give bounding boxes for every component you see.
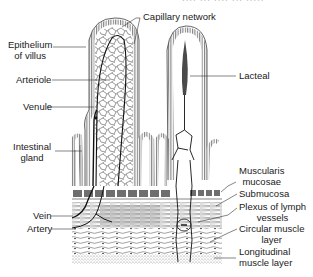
label-submucosa: Submucosa <box>239 189 289 200</box>
label-muscularis-mucosae: Muscularis mucosae <box>239 166 284 187</box>
label-capillary-network: Capillary network <box>143 12 216 23</box>
label-intestinal-gland: Intestinal gland <box>13 142 51 163</box>
label-venule: Venule <box>23 102 52 113</box>
label-plexus-of-lymph-vessels: Plexus of lymph vessels <box>239 202 306 223</box>
label-arteriole: Arteriole <box>16 75 51 86</box>
label-lacteal: Lacteal <box>239 71 270 82</box>
villus-diagram: ···· ··· ···· ··· ····· <box>0 0 313 277</box>
label-artery: Artery <box>27 224 52 235</box>
label-circular-muscle-layer: Circular muscle layer <box>239 224 304 245</box>
label-epithelium-of-villus: Epithelium of villus <box>8 40 52 61</box>
label-vein: Vein <box>33 211 52 222</box>
label-longitudinal-muscle-layer: Longitudinal muscle layer <box>239 247 292 268</box>
longitudinal-muscle-band <box>72 254 222 264</box>
